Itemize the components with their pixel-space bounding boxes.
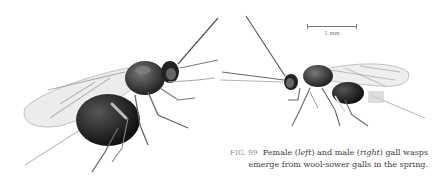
scale-bar-line: [307, 26, 357, 27]
caption-line-2: emerge from wool-sower galls in the spri…: [228, 159, 428, 170]
scale-bar-label: 1 mm: [307, 30, 357, 36]
figure-caption: FIG. 99 Female (left) and male (right) g…: [228, 147, 428, 170]
caption-text: ) gall wasps: [380, 148, 428, 157]
caption-line-1: FIG. 99 Female (left) and male (right) g…: [228, 147, 428, 159]
figure-number: FIG. 99: [230, 149, 258, 157]
caption-text: ) and male (: [311, 148, 360, 157]
caption-italic-right: right: [360, 148, 380, 157]
female-wasp: [24, 18, 218, 172]
caption-italic-left: left: [298, 148, 311, 157]
caption-text: Female (: [263, 148, 298, 157]
